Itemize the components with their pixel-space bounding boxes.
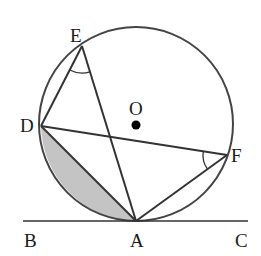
segment-DF: [41, 126, 227, 155]
angle-mark-F: [203, 151, 208, 169]
label-B: B: [24, 230, 37, 251]
label-O: O: [129, 98, 143, 119]
label-A: A: [130, 230, 144, 251]
label-E: E: [70, 25, 82, 46]
angle-mark-E: [70, 70, 90, 73]
geometry-diagram: E O D F B A C: [0, 0, 261, 256]
label-F: F: [231, 145, 242, 166]
center-dot-O: [132, 121, 141, 130]
label-D: D: [20, 115, 34, 136]
label-C: C: [235, 230, 248, 251]
segment-FA: [136, 155, 227, 221]
